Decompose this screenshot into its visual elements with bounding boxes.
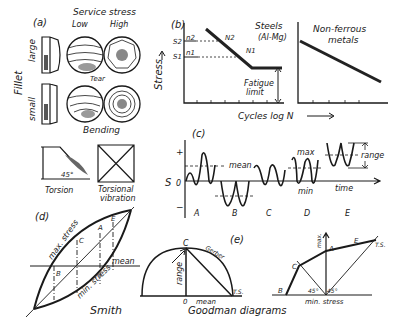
case-c-label: C (266, 209, 272, 218)
final-fracture-zone-icon (78, 63, 96, 71)
waveform-d (292, 158, 318, 184)
fatigue-label: Fatigue (244, 79, 274, 88)
ts2-label: T.S. (375, 241, 386, 248)
fatigue-diagram-figure: (a) Service stress Low High Fillet large… (0, 0, 402, 332)
angle-45-label: 45° (61, 171, 73, 179)
crack-hatch-icon (44, 104, 48, 120)
limit-label: limit (246, 88, 264, 97)
ts-label: T.S. (233, 288, 244, 295)
arrow-icon (172, 249, 185, 263)
high-label: High (110, 20, 128, 29)
point-c-label: C (79, 237, 84, 245)
panel-c-stress-cycles: (c) S 0 + − mean max min range time A B … (165, 128, 384, 218)
steels-label: Steels (255, 21, 283, 31)
nonferrous-sn-curve (300, 41, 381, 82)
final-fracture-zone-icon (116, 49, 128, 61)
cycles-axis-label: Cycles log N (238, 111, 294, 121)
beach-marks-icon (68, 96, 102, 113)
vibration-label: vibration (100, 194, 136, 203)
panel-c-tag: (c) (192, 128, 205, 139)
b-label: B (278, 287, 283, 295)
metals-label: metals (328, 35, 359, 45)
min-stress-label: min. stress (75, 263, 112, 300)
panel-b-sn-curves: (b) Stress S2 S1 n2 n1 N2 N1 Steels (Al-… (153, 19, 388, 121)
point-a-label: A (97, 224, 103, 232)
minus-label: − (176, 202, 184, 212)
n1-label: n1 (186, 49, 195, 57)
range-label: range (361, 151, 384, 160)
torsional-label: Torsional (98, 185, 134, 194)
large-label: large (27, 39, 37, 62)
s1-label: S1 (173, 53, 182, 61)
beach-marks-icon (67, 45, 103, 62)
crack-hatch-icon (44, 55, 48, 70)
angle1-label: 45° (308, 287, 319, 294)
arrow-up-icon (159, 51, 165, 60)
max-label: max. (315, 233, 322, 248)
panel-d-smith-diagram: (d) mean B C A E max. stress min. stress… (26, 207, 140, 317)
panel-d-tag: (d) (35, 211, 49, 222)
arrow-right-icon (307, 113, 334, 119)
torsional-vibration-specimen-icon (98, 145, 134, 182)
panel-a-fracture-surfaces: (a) Service stress Low High Fillet large… (13, 7, 140, 203)
c-label: C (183, 239, 189, 248)
final-fracture-zone-icon (81, 110, 95, 118)
final-fracture-zone-icon (117, 99, 127, 109)
point-e-label: E (111, 215, 116, 223)
mean-label: mean (112, 257, 135, 266)
service-stress-label: Service stress (73, 7, 136, 17)
panel-e-goodman-diagrams: (e) C Gerber range T.S. 0 mean Goodman d… (140, 233, 386, 316)
plus-label: + (176, 147, 184, 157)
N2-label: N2 (225, 34, 235, 42)
dashed-guides (196, 41, 240, 57)
fatigue-limit-arrow-icon (275, 68, 281, 103)
smith-title: Smith (90, 304, 122, 317)
al-mg-label: (Al-Mg) (258, 33, 287, 42)
min-stress-e-label: min. stress (305, 298, 344, 306)
waveform-a (186, 153, 215, 185)
fillet-label: Fillet (13, 70, 24, 95)
case-b-label: B (232, 209, 238, 218)
case-a-label: A (193, 209, 199, 218)
time-label: time (335, 184, 353, 193)
max-label: max (297, 148, 315, 157)
max-axis (323, 233, 329, 295)
s2-label: S2 (173, 38, 182, 46)
nonferrous-label: Non-ferrous (313, 24, 367, 34)
panel-b-tag: (b) (171, 19, 185, 30)
case-d-label: D (304, 209, 310, 218)
N1-label: N1 (246, 47, 256, 55)
a-label: A (328, 245, 334, 253)
point-b-label: B (56, 270, 61, 278)
low-label: Low (72, 20, 88, 29)
panel-a-tag: (a) (33, 17, 47, 28)
waveform-b (221, 181, 249, 206)
small-label: small (27, 97, 37, 121)
angle2-label: 45° (327, 287, 338, 294)
panel-e-tag: (e) (230, 234, 244, 245)
case-e-label: E (345, 209, 351, 218)
torsion-label: Torsion (45, 186, 73, 195)
waveform-c (254, 165, 285, 186)
waveform-e (327, 143, 354, 166)
bending-label: Bending (83, 125, 120, 135)
min-label: min (298, 187, 313, 196)
mean-label: mean (229, 161, 252, 170)
time-axis (185, 140, 380, 218)
stress-axis-label: Stress (153, 59, 164, 90)
c2-label: C (292, 263, 297, 271)
goodman-title: Goodman diagrams (188, 305, 287, 316)
max-stress-label: max. stress (46, 218, 80, 261)
e-label: E (354, 237, 359, 245)
range-label: range (175, 262, 184, 285)
s-axis-label: S (165, 177, 172, 188)
zero-label: 0 (176, 179, 181, 188)
tear-label: Tear (90, 75, 106, 83)
